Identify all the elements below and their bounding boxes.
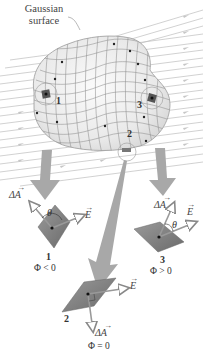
callout-arrow-3 bbox=[149, 148, 176, 196]
surface-label-1: 1 bbox=[56, 96, 61, 106]
callout-arrow-2 bbox=[88, 160, 127, 290]
detail-patch-2 bbox=[62, 278, 128, 331]
gaussian-surface-label-line1: Gaussian bbox=[18, 4, 70, 15]
gaussian-surface-label: Gaussian surface bbox=[18, 4, 70, 26]
gaussian-surface bbox=[33, 17, 170, 161]
detail-patch-1 bbox=[30, 202, 84, 248]
flux-label-2: Φ = 0 bbox=[88, 342, 110, 352]
area-vector-label-3: ΔA→ bbox=[154, 200, 166, 210]
angle-label-3: θ bbox=[172, 220, 177, 230]
surface-label-2: 2 bbox=[127, 129, 132, 139]
gaussian-surface-diagram bbox=[0, 0, 203, 355]
callout-arrow-1 bbox=[30, 150, 60, 200]
patch-number-2: 2 bbox=[64, 314, 69, 324]
field-vector-label-1: E→ bbox=[85, 210, 91, 220]
field-vector-label-3: E→ bbox=[187, 207, 193, 217]
patch-number-1: 1 bbox=[46, 252, 51, 262]
field-vector-label-2: E→ bbox=[130, 281, 136, 291]
flux-label-3: Φ > 0 bbox=[150, 267, 172, 277]
gaussian-surface-label-line2: surface bbox=[18, 16, 70, 27]
area-vector-label-2: ΔA→ bbox=[95, 328, 107, 338]
area-vector-label-1: ΔA→ bbox=[9, 190, 21, 200]
angle-label-1: θ bbox=[47, 208, 52, 218]
flux-label-1: Φ < 0 bbox=[34, 264, 56, 274]
surface-label-3: 3 bbox=[137, 100, 142, 110]
patch-number-3: 3 bbox=[160, 255, 165, 265]
